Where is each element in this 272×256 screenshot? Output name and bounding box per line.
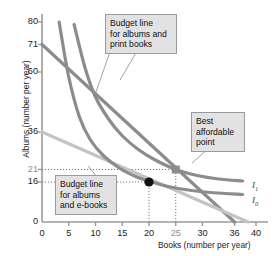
- callout-print-budget-line2: for albums and: [110, 29, 172, 40]
- x-tick-label: 40: [247, 228, 265, 238]
- callout-ebook-budget-line3: and e-books: [60, 200, 112, 211]
- callout-print-budget-line1: Budget line: [110, 18, 172, 29]
- callout-best-point-line3: point: [196, 137, 240, 148]
- best-affordable-point-ebooks: [144, 177, 153, 186]
- y-tick-label: 0: [20, 216, 38, 226]
- chart-figure: Budget line for albums and print books B…: [0, 0, 272, 256]
- callout-ebook-budget-line2: for albums: [60, 190, 112, 201]
- y-tick-label: 36: [20, 126, 38, 136]
- callout-print-budget: Budget line for albums and print books: [105, 14, 177, 54]
- x-tick-label: 20: [140, 228, 158, 238]
- callout-best-point-line2: affordable: [196, 127, 240, 138]
- x-tick-label: 36: [226, 228, 244, 238]
- x-tick-label: 5: [60, 228, 78, 238]
- callout-best-point: Best affordable point: [191, 112, 245, 152]
- x-tick-label: 0: [33, 228, 51, 238]
- x-tick-label: 10: [87, 228, 105, 238]
- x-tick-label: 15: [113, 228, 131, 238]
- x-tick-label: 25: [167, 228, 185, 238]
- callout-ebook-budget: Budget line for albums and e-books: [55, 175, 117, 215]
- best-affordable-point-print: [172, 166, 180, 174]
- callout-ebook-budget-line1: Budget line: [60, 179, 112, 190]
- x-axis-title: Books (number per year): [158, 240, 251, 250]
- callout-best-point-line1: Best: [196, 116, 240, 127]
- curve-label-i1-sub: 1: [255, 185, 258, 192]
- y-tick-label: 80: [20, 16, 38, 26]
- y-tick-label: 16: [20, 176, 38, 186]
- y-tick-label: 60: [20, 66, 38, 76]
- curve-label-i1: I1: [252, 180, 258, 192]
- x-axis-title-text: Books (number per year): [158, 240, 251, 250]
- y-tick-label: 21: [20, 164, 38, 174]
- x-tick-label: 30: [194, 228, 212, 238]
- y-tick-label: 71: [20, 39, 38, 49]
- y-axis-title: Albums (number per year): [21, 39, 31, 179]
- curve-label-i0-sub: 0: [255, 200, 258, 207]
- curve-label-i0: I0: [252, 195, 258, 207]
- callout-print-budget-line3: print books: [110, 39, 172, 50]
